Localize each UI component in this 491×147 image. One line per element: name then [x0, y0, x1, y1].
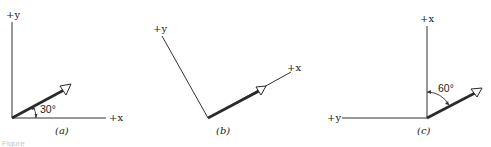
- vector-arrow-shaft: [208, 91, 259, 118]
- y-axis: [162, 36, 208, 118]
- panel-c: +x +y 60° (c): [327, 13, 482, 136]
- arc-arrow-icon: [427, 90, 431, 94]
- y-axis-label: +y: [153, 23, 167, 34]
- x-axis-label: +x: [109, 112, 123, 123]
- y-axis-label: +y: [6, 9, 20, 20]
- vector-arrow-shaft: [12, 90, 64, 118]
- figure-canvas: +y +x 30° (a) +y +x (b) +x +y 60° (c) Fi…: [0, 0, 491, 147]
- arc-arrow-icon: [35, 114, 38, 118]
- y-axis-label: +y: [327, 112, 341, 123]
- figure-caption: Figure: [2, 139, 25, 147]
- angle-label: 30°: [40, 103, 56, 115]
- vector-arrow-shaft: [427, 93, 475, 118]
- panel-label: (b): [216, 125, 230, 136]
- angle-label: 60°: [438, 82, 454, 94]
- x-axis-label: +x: [287, 62, 301, 73]
- panel-label: (a): [55, 125, 69, 136]
- panel-label: (c): [417, 125, 431, 136]
- panel-a: +y +x 30° (a): [6, 9, 123, 136]
- open-arrowhead-icon: [60, 84, 71, 95]
- x-axis-label: +x: [420, 13, 434, 24]
- panel-b: +y +x (b): [153, 23, 301, 136]
